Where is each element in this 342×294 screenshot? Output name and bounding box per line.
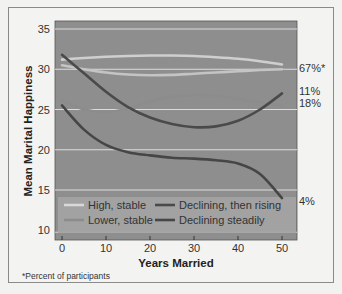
y-tick-label: 35 xyxy=(38,23,50,35)
y-tick-label: 25 xyxy=(38,104,50,116)
legend-item-label: Declining, then rising xyxy=(179,199,281,211)
footnote: *Percent of participants xyxy=(22,271,110,281)
x-tick-label: 10 xyxy=(100,242,112,254)
end-label-lower-stable: 18% xyxy=(299,97,321,109)
x-tick-label: 0 xyxy=(59,242,65,254)
y-axis-title: Mean Marital Happiness xyxy=(22,65,34,196)
legend-item-label: High, stable xyxy=(88,199,146,211)
y-tick-label: 20 xyxy=(38,144,50,156)
y-tick-label: 10 xyxy=(38,224,50,236)
x-tick-label: 20 xyxy=(144,242,156,254)
end-label-declining-rising: 11% xyxy=(299,85,320,97)
legend-item-label: Lower, stable xyxy=(88,214,153,226)
x-axis-title: Years Married xyxy=(138,257,213,269)
y-tick-label: 15 xyxy=(38,184,50,196)
end-label-declining-steadily: 4% xyxy=(299,195,315,207)
x-tick-label: 50 xyxy=(276,242,288,254)
y-tick-label: 30 xyxy=(38,63,50,75)
end-label-high-stable: 67%* xyxy=(299,62,326,74)
x-tick-label: 30 xyxy=(188,242,200,254)
chart-svg: High, stableLower, stableDeclining, then… xyxy=(0,0,342,294)
x-tick-label: 40 xyxy=(232,242,244,254)
legend-item-label: Declining steadily xyxy=(179,214,265,226)
y-axis-ticks: 101520253035 xyxy=(38,23,50,236)
